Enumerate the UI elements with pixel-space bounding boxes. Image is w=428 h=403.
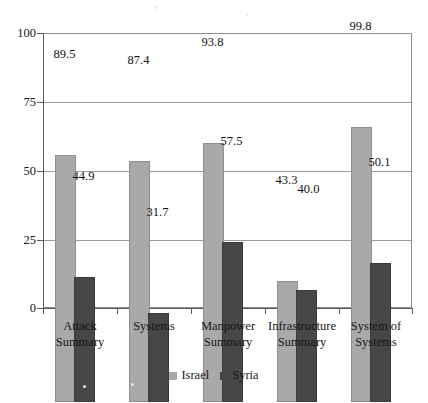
value-label-syria-4: 50.1 <box>361 156 398 168</box>
bar-syria-2 <box>222 128 241 402</box>
x-tick-3 <box>265 308 266 314</box>
legend-item-syria: Syria <box>220 368 258 383</box>
category-label-2-line-0: Manpower <box>189 318 267 334</box>
scan-speckle <box>246 14 249 16</box>
x-tick-0 <box>43 308 44 314</box>
category-label-3: Infrastructure Summary <box>262 318 342 350</box>
value-label-israel-4: 99.8 <box>342 20 379 32</box>
category-label-4: System of Systems <box>339 318 413 350</box>
chart-legend: Israel Syria <box>0 368 428 383</box>
gridline-75 <box>44 102 411 103</box>
bar-israel-2 <box>203 128 222 402</box>
bar-israel-1 <box>129 128 148 402</box>
bar-israel-4 <box>351 128 370 402</box>
bar-syria-1 <box>148 128 167 402</box>
y-tick-label-100: 100 <box>17 27 36 39</box>
scan-speckle <box>131 383 134 386</box>
value-label-syria-2: 57.5 <box>213 135 250 147</box>
category-label-0: Attack Summary <box>43 318 117 350</box>
y-tick-label-75: 75 <box>24 96 37 108</box>
category-label-1: Systems <box>117 318 191 334</box>
y-tick-100 <box>37 33 44 34</box>
value-label-israel-2: 93.8 <box>194 36 231 48</box>
bar-syria-3 <box>296 128 315 402</box>
y-tick-label-0: 0 <box>30 302 36 314</box>
bar-chart: 100 75 50 25 0 89.5 44.9 87.4 31.7 93.8 … <box>0 0 428 403</box>
category-label-2: Manpower Summary <box>189 318 267 350</box>
scan-speckle <box>83 385 86 388</box>
category-label-0-line-0: Attack <box>43 318 117 334</box>
legend-item-israel: Israel <box>169 368 209 383</box>
x-tick-2 <box>191 308 192 314</box>
category-label-4-line-0: System of <box>339 318 413 334</box>
value-label-israel-0: 89.5 <box>46 48 83 60</box>
bar-syria-4 <box>370 128 389 402</box>
scan-speckle <box>155 6 158 9</box>
y-tick-75 <box>37 102 44 103</box>
y-tick-25 <box>37 240 44 241</box>
value-label-syria-3: 40.0 <box>290 183 327 195</box>
y-tick-label-25: 25 <box>24 234 37 246</box>
category-label-3-line-1: Summary <box>262 334 342 350</box>
legend-label-israel: Israel <box>181 368 209 383</box>
bar-israel-3 <box>277 128 296 402</box>
value-label-syria-0: 44.9 <box>65 170 102 182</box>
legend-swatch-israel-icon <box>169 372 177 380</box>
value-label-israel-1: 87.4 <box>120 54 157 66</box>
y-tick-50 <box>37 171 44 172</box>
x-tick-1 <box>117 308 118 314</box>
category-label-1-line-0: Systems <box>117 318 191 334</box>
category-label-2-line-1: Summary <box>189 334 267 350</box>
legend-label-syria: Syria <box>232 368 258 383</box>
x-tick-4 <box>339 308 340 314</box>
x-tick-5 <box>412 308 413 314</box>
category-label-0-line-1: Summary <box>43 334 117 350</box>
category-label-3-line-0: Infrastructure <box>262 318 342 334</box>
y-tick-label-50: 50 <box>24 165 37 177</box>
category-label-4-line-1: Systems <box>339 334 413 350</box>
value-label-syria-1: 31.7 <box>139 206 176 218</box>
legend-swatch-syria-icon <box>220 372 228 380</box>
